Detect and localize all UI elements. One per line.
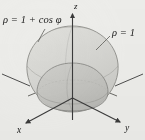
outer-surface-label-text: ρ = 1 + cos φ: [3, 14, 62, 25]
y-axis-label-text: y: [125, 123, 129, 133]
inner-surface-label-text: ρ = 1: [112, 27, 135, 38]
x-axis-label-text: x: [17, 125, 21, 135]
spherical-coordinates-figure: ρ = 1 + cos φ ρ = 1 z x y: [0, 0, 145, 140]
z-axis-label-text: z: [74, 1, 78, 11]
outer-surface-label: ρ = 1 + cos φ: [3, 15, 62, 26]
y-axis-label: y: [125, 124, 129, 134]
inner-surface-label: ρ = 1: [112, 28, 135, 39]
x-axis-stub: [2, 74, 30, 86]
z-axis-label: z: [74, 2, 78, 11]
x-axis-label: x: [17, 126, 21, 136]
y-axis-stub: [115, 74, 143, 86]
